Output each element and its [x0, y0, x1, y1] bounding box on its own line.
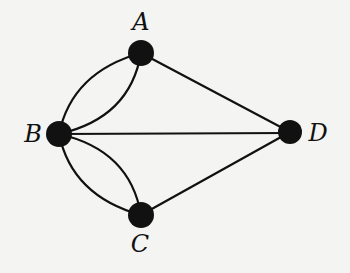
label-d: D [307, 119, 327, 147]
edge-b-a-inner [59, 53, 141, 134]
node-a [128, 40, 154, 66]
edge-b-a-outer [59, 53, 141, 134]
edge-b-d [59, 133, 290, 134]
label-b: B [23, 120, 42, 148]
edge-a-d [141, 53, 290, 132]
node-c [128, 202, 154, 228]
label-a: A [130, 8, 149, 36]
graph-diagram: A B C D [0, 0, 350, 273]
node-d [278, 120, 302, 144]
label-c: C [131, 230, 149, 258]
edge-c-d [141, 132, 290, 215]
edge-b-c-inner [59, 134, 141, 215]
edge-b-c-outer [59, 134, 141, 215]
node-b [46, 121, 72, 147]
